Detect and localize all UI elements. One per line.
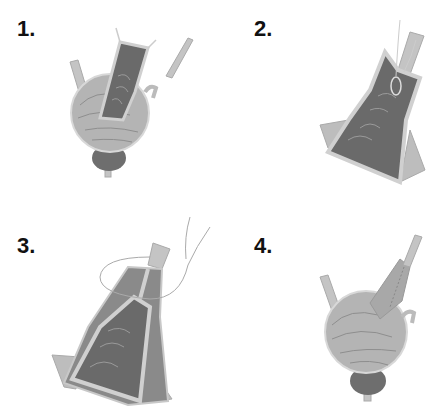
- ureter-right: [145, 87, 156, 98]
- panel-3: 3.: [0, 207, 220, 414]
- catheter: [403, 235, 422, 267]
- illustration-1: [0, 0, 220, 207]
- catheter: [148, 243, 170, 269]
- illustration-3: [0, 207, 220, 415]
- stent: [166, 38, 193, 78]
- panel-4: 4.: [220, 207, 440, 414]
- panel-1: 1.: [0, 0, 220, 207]
- illustration-2: [220, 0, 440, 207]
- panel-2: 2.: [220, 0, 440, 207]
- illustration-4: [220, 207, 440, 415]
